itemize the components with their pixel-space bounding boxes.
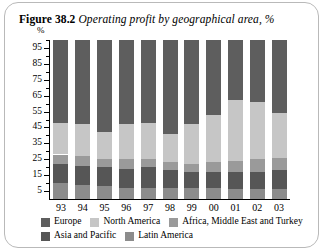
bar-segment[interactable] <box>163 188 178 199</box>
bar-segment[interactable] <box>250 40 265 102</box>
legend-label: Europe <box>54 217 81 227</box>
bar-group <box>50 40 290 199</box>
bar-segment[interactable] <box>97 167 112 186</box>
y-tick-label: 95 <box>19 43 42 53</box>
bar-segment[interactable] <box>97 40 112 132</box>
bar-segment[interactable] <box>206 172 221 188</box>
bar-segment[interactable] <box>53 123 68 155</box>
legend-item[interactable]: Latin America <box>125 231 193 241</box>
bar-segment[interactable] <box>97 186 112 199</box>
bar-segment[interactable] <box>75 124 90 156</box>
y-tick-minor <box>46 167 49 168</box>
bar-segment[interactable] <box>184 124 199 164</box>
bar-column[interactable] <box>272 40 287 199</box>
bar-column[interactable] <box>163 40 178 199</box>
bar-segment[interactable] <box>119 40 134 124</box>
x-tick-label: 03 <box>268 202 290 213</box>
bar-segment[interactable] <box>184 188 199 199</box>
y-tick-major <box>44 64 49 65</box>
bar-segment[interactable] <box>206 162 221 172</box>
bar-segment[interactable] <box>97 132 112 159</box>
bar-segment[interactable] <box>119 159 134 169</box>
bar-segment[interactable] <box>272 170 287 189</box>
bar-segment[interactable] <box>228 40 243 100</box>
bar-column[interactable] <box>75 40 90 199</box>
bar-segment[interactable] <box>206 40 221 115</box>
legend-swatch-icon <box>169 218 178 227</box>
bar-segment[interactable] <box>75 185 90 199</box>
y-tick-major <box>44 112 49 113</box>
legend-row-2: Asia and PacificLatin America <box>41 229 317 243</box>
bar-segment[interactable] <box>272 158 287 171</box>
bar-segment[interactable] <box>53 164 68 183</box>
bar-column[interactable] <box>250 40 265 199</box>
bar-segment[interactable] <box>206 188 221 199</box>
y-tick-major <box>44 48 49 49</box>
bar-segment[interactable] <box>228 161 243 172</box>
y-tick-label: 75 <box>19 75 42 85</box>
bar-column[interactable] <box>206 40 221 199</box>
bar-column[interactable] <box>141 40 156 199</box>
bar-segment[interactable] <box>228 189 243 199</box>
legend-swatch-icon <box>41 232 50 241</box>
x-tick-label: 93 <box>50 202 72 213</box>
bar-segment[interactable] <box>119 188 134 199</box>
y-tick-minor <box>46 120 49 121</box>
bar-segment[interactable] <box>184 40 199 124</box>
bar-segment[interactable] <box>75 40 90 124</box>
y-tick-major <box>44 175 49 176</box>
bar-segment[interactable] <box>141 40 156 123</box>
bar-segment[interactable] <box>250 159 265 172</box>
bar-segment[interactable] <box>228 100 243 160</box>
x-tick-label: 96 <box>115 202 137 213</box>
bar-segment[interactable] <box>163 134 178 163</box>
bar-segment[interactable] <box>272 189 287 199</box>
bar-segment[interactable] <box>53 183 68 199</box>
y-tick-major <box>44 159 49 160</box>
legend-item[interactable]: Europe <box>41 217 81 227</box>
bar-segment[interactable] <box>184 172 199 188</box>
bar-segment[interactable] <box>119 124 134 159</box>
bar-segment[interactable] <box>272 40 287 113</box>
bar-segment[interactable] <box>97 159 112 167</box>
bar-column[interactable] <box>228 40 243 199</box>
bar-segment[interactable] <box>250 172 265 189</box>
bar-column[interactable] <box>97 40 112 199</box>
bar-column[interactable] <box>184 40 199 199</box>
bar-segment[interactable] <box>163 170 178 187</box>
y-tick-label: 25 <box>19 154 42 164</box>
bar-segment[interactable] <box>141 123 156 160</box>
bar-segment[interactable] <box>272 113 287 158</box>
bar-segment[interactable] <box>206 115 221 163</box>
y-tick-label: 55 <box>19 107 42 117</box>
y-tick-minor <box>46 183 49 184</box>
legend-label: Asia and Pacific <box>54 231 116 241</box>
bar-segment[interactable] <box>53 40 68 123</box>
y-tick-label: 65 <box>19 91 42 101</box>
bar-segment[interactable] <box>75 156 90 166</box>
y-tick-minor <box>46 135 49 136</box>
bar-column[interactable] <box>119 40 134 199</box>
bar-segment[interactable] <box>141 188 156 199</box>
y-tick-label: 5 <box>19 186 42 196</box>
bar-segment[interactable] <box>250 189 265 199</box>
bar-segment[interactable] <box>75 166 90 185</box>
chart-legend: EuropeNorth AmericaAfrica, Middle East a… <box>41 215 317 243</box>
legend-item[interactable]: North America <box>90 217 160 227</box>
legend-swatch-icon <box>90 218 99 227</box>
bar-segment[interactable] <box>184 164 199 172</box>
bar-segment[interactable] <box>163 40 178 134</box>
x-tick-label: 97 <box>137 202 159 213</box>
bar-segment[interactable] <box>53 155 68 165</box>
bar-segment[interactable] <box>141 167 156 188</box>
legend-item[interactable]: Africa, Middle East and Turkey <box>169 217 303 227</box>
x-axis-line <box>49 199 290 200</box>
bar-column[interactable] <box>53 40 68 199</box>
x-tick-label: 98 <box>159 202 181 213</box>
bar-segment[interactable] <box>141 159 156 167</box>
bar-segment[interactable] <box>250 102 265 159</box>
bar-segment[interactable] <box>119 169 134 188</box>
bar-segment[interactable] <box>228 172 243 189</box>
bar-segment[interactable] <box>163 162 178 170</box>
legend-item[interactable]: Asia and Pacific <box>41 231 116 241</box>
